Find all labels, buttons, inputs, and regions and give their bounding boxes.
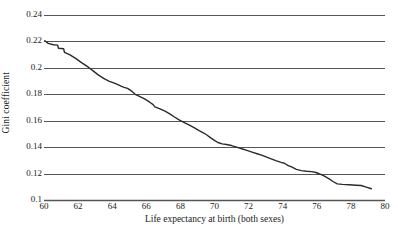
gini-life-expectancy-chart: Gini coefficient 0.10.120.140.160.180.20… [0, 0, 398, 234]
x-tick-label: 80 [370, 202, 398, 211]
y-axis-title: Gini coefficient [0, 0, 14, 205]
x-tick-label: 70 [200, 202, 230, 211]
y-tick-label: 0.22 [16, 36, 42, 45]
y-tick-label: 0.24 [16, 10, 42, 19]
plot-area [44, 0, 385, 234]
x-tick-label: 64 [97, 202, 127, 211]
plot-svg [44, 0, 385, 234]
x-tick-label: 62 [63, 202, 93, 211]
x-tick-label: 68 [165, 202, 195, 211]
x-tick-label: 66 [131, 202, 161, 211]
y-tick-label: 0.2 [16, 63, 42, 72]
data-line [45, 41, 372, 189]
y-tick-label: 0.12 [16, 169, 42, 178]
y-tick-label: 0.16 [16, 116, 42, 125]
gridlines [44, 16, 385, 201]
x-tick-label: 72 [234, 202, 264, 211]
y-axis-tick-labels: 0.10.120.140.160.180.20.220.24 [14, 0, 42, 234]
y-axis-title-label: Gini coefficient [2, 72, 12, 133]
x-axis-title: Life expectancy at birth (both sexes) [44, 215, 385, 225]
data-series-group [45, 41, 372, 189]
x-tick-label: 60 [29, 202, 59, 211]
x-tick-label: 74 [268, 202, 298, 211]
y-tick-label: 0.14 [16, 142, 42, 151]
x-tick-label: 78 [336, 202, 366, 211]
y-tick-label: 0.18 [16, 89, 42, 98]
x-tick-label: 76 [302, 202, 332, 211]
